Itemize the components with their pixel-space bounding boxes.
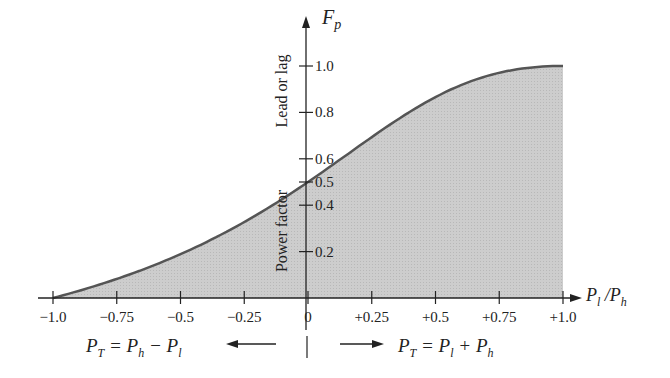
x-axis-arrow-icon: [570, 294, 582, 302]
x-tick-label: −0.25: [227, 309, 262, 325]
x-tick-label: −1.0: [39, 309, 66, 325]
y-tick-label: 1.0: [315, 58, 334, 74]
y-tick-label: 0.5: [315, 174, 334, 190]
side-label-upper-text: Lead or lag: [273, 55, 290, 128]
left-arrow-icon: [226, 340, 238, 348]
y-tick-label: 0.4: [315, 197, 334, 213]
y-axis-label: Fp: [322, 6, 341, 33]
right-arrow-icon: [372, 340, 384, 348]
x-tick-label: −0.75: [99, 309, 134, 325]
y-axis-label-sub: p: [334, 17, 341, 32]
y-axis-arrow-icon: [302, 16, 310, 28]
equation-right: PT = Pl + Ph: [398, 335, 494, 361]
equation-left: PT = Ph − Pl: [86, 335, 182, 361]
power-factor-chart: −1.0−0.75−0.5−0.250+0.25+0.5+0.75+1.00.2…: [0, 0, 670, 378]
y-tick-label: 0.6: [315, 151, 334, 167]
x-axis-label-p: P: [586, 285, 597, 305]
x-tick-label: +0.5: [422, 309, 449, 325]
x-axis-label: Pl /Ph: [586, 285, 627, 310]
side-label-lower-text: Power factor: [273, 190, 290, 272]
side-label-upper: Lead or lag: [273, 41, 291, 141]
y-tick-label: 0.2: [315, 244, 334, 260]
x-tick-label: −0.5: [167, 309, 194, 325]
side-label-lower: Power factor: [273, 181, 291, 281]
x-tick-label: 0: [304, 309, 312, 325]
x-axis-label-sub-h: h: [621, 295, 627, 309]
x-tick-label: +0.25: [354, 309, 389, 325]
y-tick-label: 0.8: [315, 104, 334, 120]
x-tick-label: +0.75: [482, 309, 517, 325]
x-tick-label: +1.0: [549, 309, 576, 325]
y-axis-label-main: F: [322, 6, 334, 28]
x-axis-label-slash: /P: [600, 285, 621, 305]
